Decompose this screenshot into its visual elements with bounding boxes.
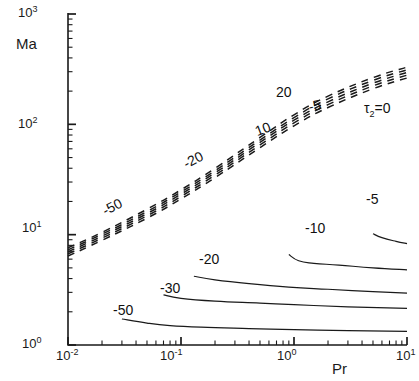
- y-tick-exp-0: 0: [36, 335, 41, 345]
- x-tick-label-0.1: 10-1: [160, 349, 182, 362]
- contour-curve: [68, 73, 407, 252]
- y-tick-exp-3: 3: [32, 4, 37, 14]
- contour-label-solid-neg5: -5: [366, 192, 378, 206]
- contour-curve: [122, 319, 407, 331]
- y-tick-exp-2: 2: [32, 115, 37, 125]
- y-tick-label-1000: 103: [18, 6, 37, 19]
- x-tick-exp-2: 0: [291, 347, 296, 357]
- contour-curve: [68, 67, 407, 248]
- x-tick-exp-0: -2: [70, 347, 78, 357]
- x-tick-exp-3: 1: [410, 347, 415, 357]
- tau-equals-zero: =0: [375, 100, 391, 116]
- contour-label-dashed-20: 20: [276, 85, 292, 99]
- y-tick-exp-1: 1: [36, 219, 41, 229]
- contour-curve: [194, 276, 407, 293]
- contour-label-solid-neg20: -20: [199, 252, 219, 266]
- contour-curve: [164, 295, 408, 309]
- contour-curve: [289, 255, 407, 270]
- contour-label-solid-neg50: -50: [113, 303, 133, 317]
- x-tick-label-1: 100: [277, 349, 296, 362]
- axes-group: [68, 13, 407, 345]
- x-tick-label-10: 101: [396, 349, 415, 362]
- contour-label-solid-neg10: -10: [305, 221, 325, 235]
- contour-curve: [68, 75, 407, 254]
- figure-root: 103 102 101 100 10-2 10-1 100 101 Ma Pr …: [0, 0, 419, 381]
- y-tick-label-100: 102: [18, 117, 37, 130]
- x-axis-title: Pr: [332, 361, 347, 376]
- contour-curve: [68, 70, 407, 250]
- contour-label-solid-neg30: -30: [160, 281, 180, 295]
- x-tick-label-0.01: 10-2: [56, 349, 78, 362]
- contour-curve: [373, 234, 407, 244]
- y-tick-label-10: 101: [22, 221, 41, 234]
- y-axis-title: Ma: [16, 36, 37, 51]
- contour-label-tau2-zero: τ2=0: [364, 101, 391, 115]
- x-tick-exp-1: -1: [174, 347, 182, 357]
- plot-canvas: [0, 0, 419, 381]
- y-tick-label-1: 100: [22, 337, 41, 350]
